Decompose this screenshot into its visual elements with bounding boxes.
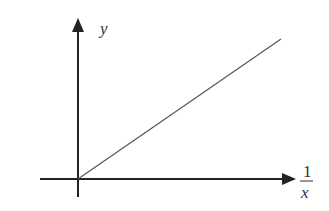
x-label-numerator: 1 xyxy=(303,162,312,181)
proportional-line xyxy=(78,39,281,179)
x-label-denominator: x xyxy=(300,183,309,202)
y-axis-label: y xyxy=(98,19,108,38)
graph-diagram: y 1 x xyxy=(0,0,329,211)
